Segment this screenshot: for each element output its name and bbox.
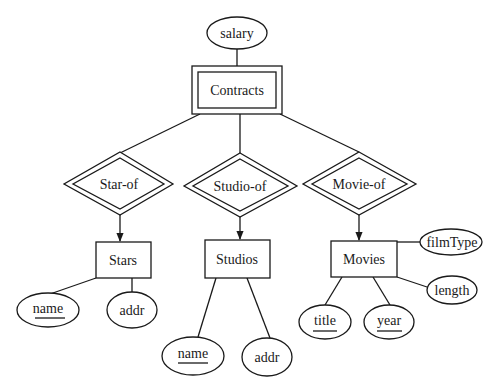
attribute-movies-title: title — [299, 305, 351, 339]
svg-text:Contracts: Contracts — [210, 83, 264, 98]
svg-text:title: title — [314, 313, 336, 328]
svg-text:salary: salary — [220, 26, 253, 41]
svg-text:filmType: filmType — [426, 235, 477, 250]
svg-text:Stars: Stars — [109, 253, 137, 268]
attribute-movies-length: length — [427, 276, 477, 304]
svg-text:Star-of: Star-of — [100, 177, 139, 192]
svg-text:length: length — [435, 283, 470, 298]
relationship-movie-of: Movie-of — [303, 152, 416, 215]
svg-text:Movies: Movies — [343, 252, 385, 267]
relationship-studio-of: Studio-of — [184, 153, 297, 217]
svg-text:addr: addr — [120, 303, 145, 318]
attribute-movies-filmtype: filmType — [420, 229, 482, 255]
attribute-studios-addr: addr — [242, 338, 292, 376]
svg-text:name: name — [178, 346, 208, 361]
attribute-studios-name: name — [162, 337, 224, 375]
svg-text:year: year — [377, 313, 401, 328]
svg-text:Studio-of: Studio-of — [214, 179, 267, 194]
entity-movies: Movies — [331, 241, 397, 277]
entity-stars: Stars — [96, 242, 151, 278]
attribute-movies-year: year — [364, 305, 414, 339]
svg-text:Movie-of: Movie-of — [333, 177, 386, 192]
entity-studios: Studios — [205, 240, 270, 278]
attribute-salary: salary — [207, 17, 267, 49]
svg-text:name: name — [33, 301, 63, 316]
weak-entity-contracts: Contracts — [192, 66, 282, 114]
attribute-stars-name: name — [17, 293, 79, 327]
relationship-star-of: Star-of — [64, 152, 173, 215]
svg-text:addr: addr — [255, 350, 280, 365]
er-diagram: salary Contracts Star-of Studio-of Movie… — [0, 0, 499, 391]
attribute-stars-addr: addr — [107, 292, 157, 328]
svg-text:Studios: Studios — [216, 252, 258, 267]
